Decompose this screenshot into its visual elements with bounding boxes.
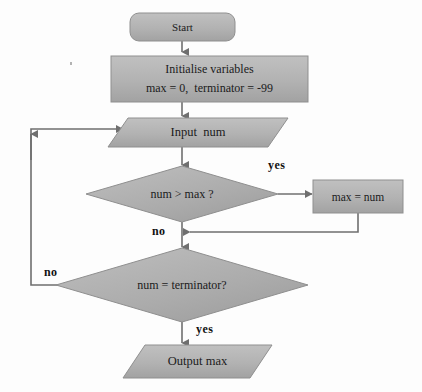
node-decision-terminator [56,248,308,322]
edge-label-no-terminator: no [44,265,57,280]
node-start [130,13,235,41]
connector-assign-max-return [190,213,358,232]
node-output [123,345,272,378]
node-assign-max [313,180,403,213]
flowchart-canvas: Start Initialise variables max = 0, term… [0,0,422,392]
node-decision-max [86,166,278,222]
edge-label-yes-terminator: yes [196,322,213,337]
connector-decision-terminator-no [31,129,123,285]
edge-label-no-max: no [152,224,165,239]
scan-artifact [70,62,72,65]
edge-label-yes-max: yes [268,158,285,173]
node-initialise [111,56,308,102]
node-input [108,118,288,147]
